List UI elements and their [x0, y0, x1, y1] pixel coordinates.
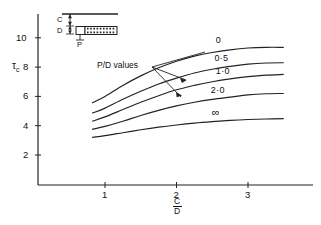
- y-axis-label-subscript: c: [16, 66, 20, 73]
- y-tick-label: 4: [23, 121, 28, 131]
- y-axis-label: τc: [12, 60, 19, 73]
- x-tick-label: 2: [174, 190, 179, 200]
- curve-label-2-0: 2·0: [211, 86, 225, 95]
- plot-area: [0, 0, 321, 225]
- y-tick-label: 8: [23, 62, 28, 72]
- curve-label-0-5: 0·5: [214, 54, 228, 63]
- figure-chart-tau-c-vs-c-over-d: τc C D P/D values C D P 24681012300·51·0…: [0, 0, 321, 225]
- curve-0: [92, 47, 284, 103]
- y-tick-label: 2: [23, 150, 28, 160]
- inset-label-p: P: [77, 41, 82, 49]
- x-tick-label: 3: [245, 190, 250, 200]
- inset-label-d: D: [57, 27, 62, 35]
- inset-label-c: C: [57, 16, 62, 24]
- inset-schematic: [62, 14, 118, 40]
- x-axis-ticks: [105, 182, 248, 188]
- curve-2-0: [92, 93, 284, 129]
- curve-0-5: [92, 63, 284, 114]
- curve-label-infinity: ∞: [212, 107, 220, 118]
- curve-label-0: 0: [216, 36, 221, 45]
- curve-label-1-0: 1·0: [216, 67, 230, 76]
- x-tick-label: 1: [102, 190, 107, 200]
- y-tick-label: 6: [23, 91, 28, 101]
- pd-values-annotation: P/D values: [97, 60, 138, 70]
- annotation-arrows: [152, 52, 205, 97]
- curve-1-0: [92, 74, 284, 121]
- y-axis-ticks: [35, 38, 41, 155]
- curve-infinity: [92, 119, 284, 138]
- x-axis-label-denominator: D: [168, 207, 186, 216]
- y-tick-label: 10: [16, 33, 27, 43]
